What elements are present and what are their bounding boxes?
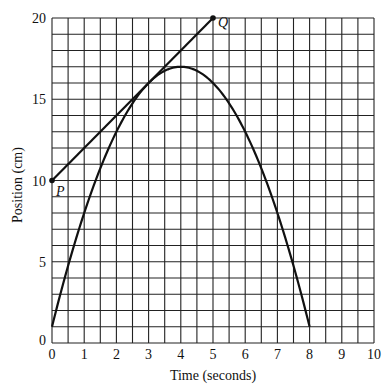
x-tick-label: 10 — [367, 347, 381, 362]
y-tick-label: 0 — [39, 333, 46, 348]
y-axis-label: Position (cm) — [10, 147, 26, 223]
x-tick-label: 2 — [113, 347, 120, 362]
x-tick-label: 6 — [242, 347, 249, 362]
x-tick-label: 0 — [49, 347, 56, 362]
y-tick-label: 20 — [32, 11, 46, 26]
x-tick-label: 9 — [338, 347, 345, 362]
x-tick-label: 5 — [210, 347, 217, 362]
y-tick-label: 10 — [32, 174, 46, 189]
x-axis-label: Time (seconds) — [170, 368, 257, 384]
y-tick-label: 15 — [32, 92, 46, 107]
plot-series: PQ — [49, 15, 309, 327]
x-tick-label: 1 — [81, 347, 88, 362]
y-tick-label: 5 — [39, 255, 46, 270]
x-tick-label: 7 — [274, 347, 281, 362]
point-q — [210, 15, 216, 21]
x-tick-label: 8 — [306, 347, 313, 362]
position-time-chart: PQ 01234567891005101520 Time (seconds) P… — [0, 0, 391, 390]
point-p — [49, 178, 55, 184]
point-label-q: Q — [218, 15, 228, 30]
x-tick-label: 4 — [177, 347, 184, 362]
grid — [52, 18, 374, 343]
point-label-p: P — [55, 184, 65, 199]
x-tick-label: 3 — [145, 347, 152, 362]
